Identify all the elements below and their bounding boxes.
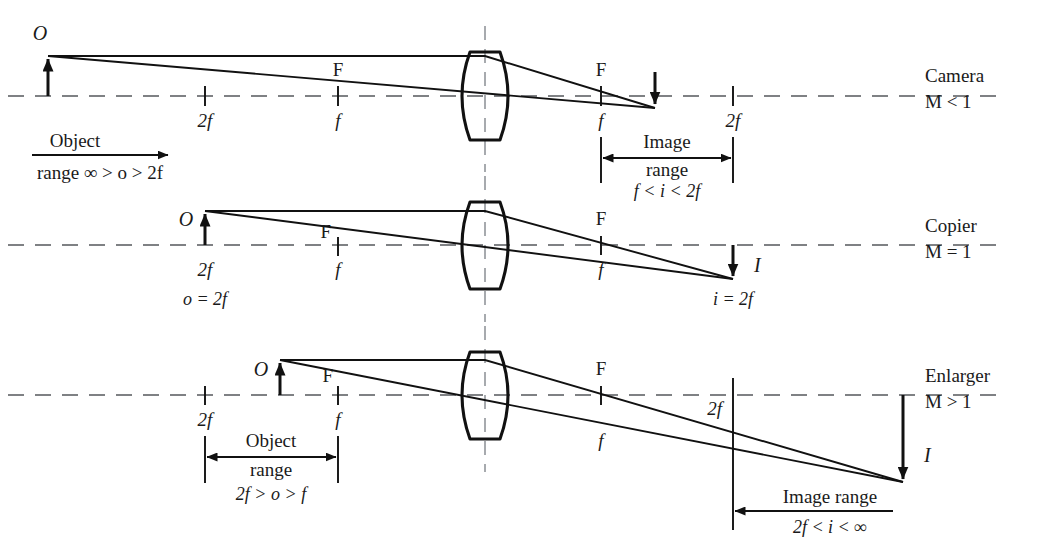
- image-range-line2-enlarger: 2f < i < ∞: [793, 517, 867, 537]
- object-range-line1-enlarger: Object: [246, 430, 297, 451]
- image-range-caption-enlarger: Image range 2f < i < ∞: [733, 398, 893, 537]
- image-range-line3-camera: f < i < 2f: [634, 181, 703, 201]
- focal-right-label-enlarger: F: [596, 358, 607, 379]
- focal-right-label-camera: F: [596, 59, 607, 80]
- image-range-caption-camera: Image range f < i < 2f: [601, 131, 733, 201]
- device-label-camera: Camera: [925, 65, 985, 86]
- device-label-copier: Copier: [925, 215, 977, 236]
- lens-enlarger: [462, 326, 508, 472]
- image-distance-label-copier: i = 2f: [713, 289, 756, 309]
- row-camera: O F F 2f f f 2f Object range ∞ > o > 2f …: [8, 22, 1006, 201]
- tick-label-left-f-camera: f: [335, 110, 343, 131]
- object-distance-label-copier: o = 2f: [183, 289, 230, 309]
- object-range-caption-camera: Object range ∞ > o > 2f: [32, 130, 168, 183]
- ray-bundle-enlarger: [280, 360, 903, 482]
- image-range-line1-camera: Image: [643, 131, 690, 152]
- tick-label-right-2f-camera: 2f: [726, 110, 744, 131]
- tick-label-right-f-enlarger: f: [598, 430, 606, 451]
- device-label-enlarger: Enlarger: [925, 365, 991, 386]
- magnification-label-copier: M = 1: [925, 241, 972, 262]
- tick-label-left-2f-enlarger: 2f: [198, 409, 216, 430]
- focal-left-label-enlarger: F: [322, 365, 333, 386]
- focal-right-label-copier: F: [596, 208, 607, 229]
- tick-label-left-f-copier: f: [335, 259, 343, 280]
- object-range-caption-enlarger: Object range 2f > o > f: [205, 430, 338, 504]
- object-range-line3-enlarger: 2f > o > f: [236, 484, 309, 504]
- tick-label-left-2f-copier: 2f: [198, 259, 216, 280]
- tick-label-left-2f-camera: 2f: [198, 110, 216, 131]
- lens-camera: [462, 26, 508, 172]
- object-range-line2-enlarger: range: [250, 459, 292, 480]
- tick-label-right-f-camera: f: [598, 110, 606, 131]
- image-label-copier: I: [753, 254, 762, 276]
- object-label-enlarger: O: [254, 358, 268, 380]
- object-range-line2-camera: range ∞ > o > 2f: [37, 162, 164, 183]
- focal-left-label-copier: F: [320, 221, 331, 242]
- ray-bundle-camera: [48, 56, 655, 108]
- tick-label-left-f-enlarger: f: [335, 409, 343, 430]
- object-range-line1-camera: Object: [50, 130, 101, 151]
- lens-ray-diagram-figure: O F F 2f f f 2f Object range ∞ > o > 2f …: [0, 0, 1039, 553]
- tick-label-right-2f-enlarger: 2f: [707, 398, 725, 419]
- object-label-copier: O: [179, 208, 193, 230]
- row-enlarger: O I F F 2f f f 2f Object range 2f > o > …: [8, 326, 1006, 537]
- focal-left-label-camera: F: [333, 59, 344, 80]
- image-range-line1-enlarger: Image range: [783, 486, 877, 507]
- image-range-line2-camera: range: [646, 159, 688, 180]
- magnification-label-enlarger: M > 1: [925, 391, 972, 412]
- magnification-label-camera: M < 1: [925, 91, 972, 112]
- object-label-camera: O: [33, 22, 47, 44]
- image-label-enlarger: I: [923, 444, 932, 466]
- row-copier: O I F F 2f f f o = 2f i = 2f Copier M = …: [8, 176, 1006, 322]
